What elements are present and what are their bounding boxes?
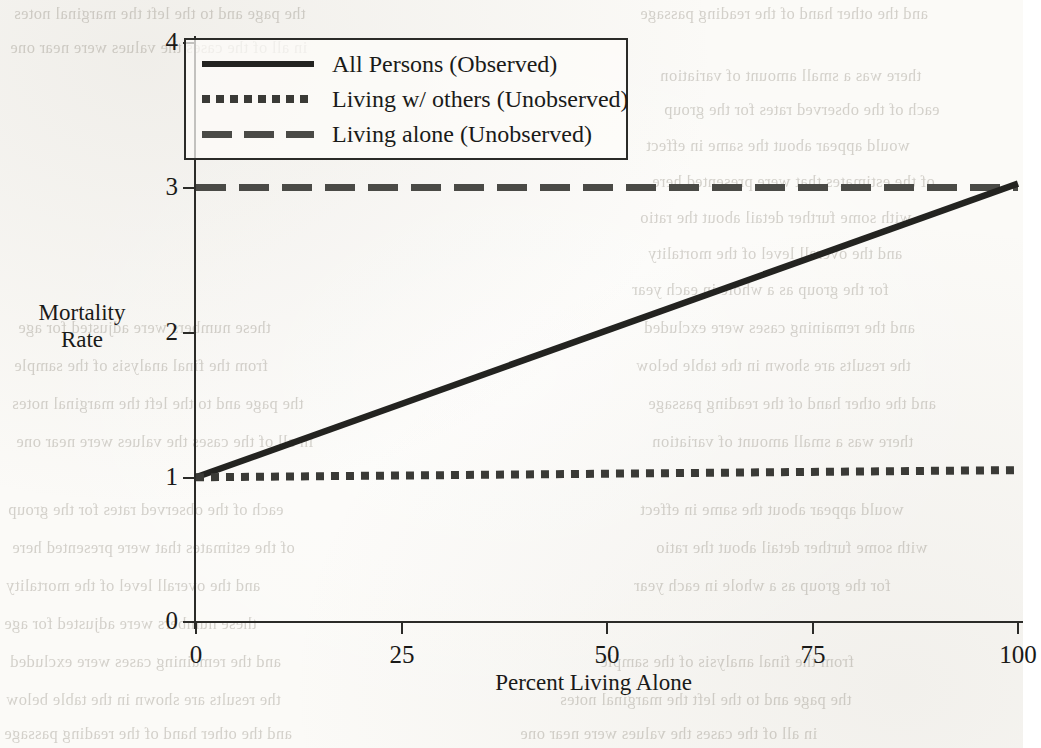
legend-label: Living w/ others (Unobserved)	[332, 87, 629, 111]
legend-label: All Persons (Observed)	[332, 52, 557, 76]
dashed-line-key-icon	[202, 125, 314, 143]
legend-item-living-with-others: Living w/ others (Unobserved)	[202, 84, 629, 114]
legend-item-living-alone: Living alone (Unobserved)	[202, 119, 592, 149]
solid-line-key-icon	[202, 55, 314, 73]
series-line-living-with-others	[196, 470, 1018, 477]
dotted-line-key-icon	[202, 90, 314, 108]
legend-item-all-persons: All Persons (Observed)	[202, 49, 557, 79]
legend-label: Living alone (Unobserved)	[332, 122, 592, 146]
chart-legend: All Persons (Observed) Living w/ others …	[184, 38, 628, 160]
series-line-all-persons	[196, 184, 1018, 478]
